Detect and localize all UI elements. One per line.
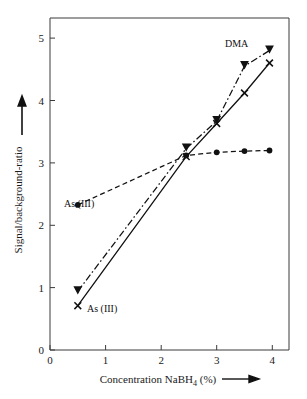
annotation-as3-lower: As (III) (87, 303, 117, 315)
y-axis-label: Signal/background-ratio (12, 146, 24, 253)
y-tick-label-5: 5 (39, 32, 45, 44)
annotation-dma: DMA (225, 38, 249, 49)
y-tick-label-4: 4 (39, 95, 45, 107)
figure: 0 1 2 3 4 5 0 1 2 3 4 Signal/background-… (0, 0, 307, 399)
x-tick-label-0: 0 (47, 354, 53, 366)
x-tick-label-4: 4 (270, 354, 276, 366)
x-axis-label-main: Concentration NaBH (100, 373, 193, 385)
chart-canvas: 0 1 2 3 4 5 0 1 2 3 4 Signal/background-… (0, 0, 307, 399)
chart-background (0, 0, 307, 399)
y-tick-label-2: 2 (39, 219, 45, 231)
x-tick-label-3: 3 (214, 354, 220, 366)
x-tick-label-2: 2 (158, 354, 164, 366)
y-tick-label-0: 0 (39, 344, 45, 356)
annotation-as3-upper: As (III) (64, 198, 94, 210)
y-tick-label-3: 3 (39, 157, 45, 169)
y-tick-label-1: 1 (39, 282, 45, 294)
x-axis-label-tail: (%) (197, 373, 217, 386)
x-tick-label-1: 1 (103, 354, 109, 366)
